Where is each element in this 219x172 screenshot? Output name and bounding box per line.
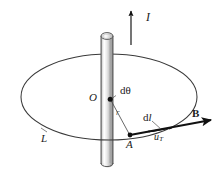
field-vector-label: B xyxy=(192,108,199,119)
length-element-label: dl xyxy=(143,112,152,123)
radius-label: r xyxy=(116,108,120,117)
center-point-marker xyxy=(108,97,113,102)
physics-figure: I O dθ r A dl uT B L xyxy=(0,0,219,172)
figure-canvas xyxy=(0,0,219,172)
loop-label: L xyxy=(41,133,47,144)
length-element-l: l xyxy=(149,111,152,123)
unit-tangent-label: uT xyxy=(154,132,163,143)
current-label: I xyxy=(146,11,150,23)
loop-point-label: A xyxy=(126,139,133,150)
center-label: O xyxy=(89,92,97,103)
angle-element-label: dθ xyxy=(120,85,131,96)
unit-tangent-subscript: T xyxy=(159,135,163,142)
